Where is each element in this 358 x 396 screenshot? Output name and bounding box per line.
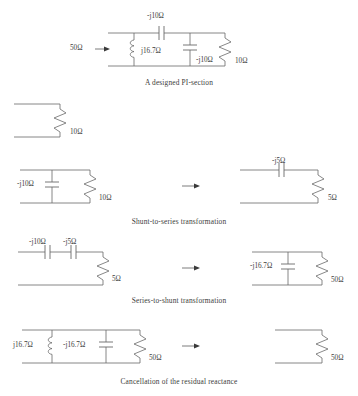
circuit-transformation-figure: 50Ω -j10Ω j16.7Ω -j10Ω 10Ω A designed PI… bbox=[0, 0, 358, 396]
right-load-resistor-zigzag bbox=[316, 257, 328, 280]
row-shunt-to-series: -j10Ω 10Ω -j5Ω 5Ω Shunt-to-series transf… bbox=[0, 158, 358, 234]
label-left-load-resistor: 50Ω bbox=[149, 354, 162, 362]
label-series-capacitor: -j10Ω bbox=[147, 12, 164, 20]
row-load-only: 10Ω bbox=[0, 96, 358, 146]
label-left-load-resistor: 5Ω bbox=[112, 275, 121, 283]
row-series-to-shunt: -j10Ω -j5Ω 5Ω -j16.7Ω 50Ω Series-to-shun… bbox=[0, 236, 358, 312]
caption-pi-section: A designed PI-section bbox=[0, 78, 358, 87]
row-pi-section: 50Ω -j10Ω j16.7Ω -j10Ω 10Ω A designed PI… bbox=[0, 0, 358, 92]
caption-shunt-to-series: Shunt-to-series transformation bbox=[0, 217, 358, 226]
label-left-capacitor-2: -j5Ω bbox=[63, 238, 76, 246]
caption-series-to-shunt: Series-to-shunt transformation bbox=[0, 296, 358, 305]
label-load-resistor: 10Ω bbox=[235, 57, 248, 65]
label-right-load-resistor: 5Ω bbox=[328, 194, 337, 202]
label-left-capacitor-1: -j10Ω bbox=[29, 238, 46, 246]
load-resistor-zigzag bbox=[54, 109, 66, 132]
label-right-load-resistor: 50Ω bbox=[331, 276, 344, 284]
left-load-resistor-zigzag bbox=[97, 257, 109, 280]
label-source-impedance: 50Ω bbox=[70, 44, 83, 52]
label-load-resistor: 10Ω bbox=[70, 128, 83, 136]
load-only-schematic bbox=[0, 96, 358, 146]
label-right-series-capacitor: -j5Ω bbox=[272, 157, 285, 165]
load-resistor-zigzag bbox=[219, 38, 231, 61]
label-right-load-resistor: 50Ω bbox=[331, 354, 344, 362]
row-cancellation: j16.7Ω -j16.7Ω 50Ω 50Ω Cancellation of t… bbox=[0, 316, 358, 396]
caption-cancellation: Cancellation of the residual reactance bbox=[0, 377, 358, 386]
source-arrow-head bbox=[104, 47, 110, 52]
transform-arrow-head bbox=[194, 184, 200, 189]
transform-arrow-head bbox=[194, 344, 200, 349]
left-load-resistor-zigzag bbox=[84, 175, 96, 198]
left-load-resistor-zigzag bbox=[134, 335, 146, 358]
label-left-shunt-inductor: j16.7Ω bbox=[13, 341, 33, 349]
shunt-inductor-coil bbox=[130, 40, 134, 57]
label-shunt-capacitor: -j10Ω bbox=[196, 56, 213, 64]
transform-arrow-head bbox=[194, 266, 200, 271]
label-right-shunt-capacitor: -j16.7Ω bbox=[250, 262, 272, 270]
right-load-resistor-zigzag bbox=[316, 335, 328, 358]
label-left-load-resistor: 10Ω bbox=[99, 194, 112, 202]
label-left-shunt-capacitor: -j10Ω bbox=[17, 180, 34, 188]
right-load-resistor-zigzag bbox=[312, 175, 324, 198]
left-shunt-inductor-coil bbox=[48, 337, 52, 354]
label-left-shunt-capacitor: -j16.7Ω bbox=[63, 341, 85, 349]
label-shunt-inductor: j16.7Ω bbox=[141, 47, 161, 55]
